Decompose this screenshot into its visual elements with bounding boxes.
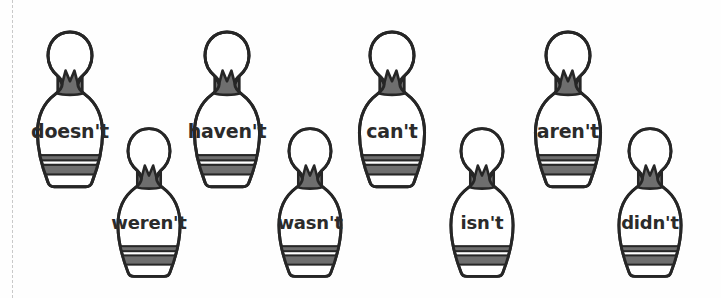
- bowling-pin-shape: [524, 28, 612, 196]
- dashed-cut-line: [12, 0, 13, 298]
- bowling-pin-shape: [26, 28, 114, 196]
- bowling-pin-shape: [183, 28, 271, 196]
- bowling-pin[interactable]: aren't: [524, 28, 612, 196]
- bowling-pin-shape: [107, 124, 191, 286]
- bowling-pin[interactable]: can't: [348, 28, 436, 196]
- bowling-pin[interactable]: isn't: [440, 124, 524, 286]
- bowling-pin-shape: [440, 124, 524, 286]
- bowling-pin[interactable]: doesn't: [26, 28, 114, 196]
- bowling-pin-worksheet: doesn'tweren'thaven'twasn'tcan'tisn'tare…: [0, 0, 721, 298]
- bowling-pin[interactable]: haven't: [183, 28, 271, 196]
- bowling-pin-shape: [608, 124, 692, 286]
- bowling-pin-shape: [348, 28, 436, 196]
- bowling-pin[interactable]: wasn't: [268, 124, 352, 286]
- bowling-pin[interactable]: weren't: [107, 124, 191, 286]
- bowling-pin[interactable]: didn't: [608, 124, 692, 286]
- bowling-pin-shape: [268, 124, 352, 286]
